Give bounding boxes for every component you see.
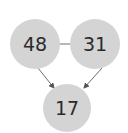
node-31: 31 [70, 19, 120, 69]
arrow-48-to-17 [38, 68, 54, 88]
node-17: 17 [43, 84, 91, 132]
arrow-31-to-17 [84, 68, 102, 88]
node-17-label: 17 [55, 97, 79, 119]
number-diagram: 48 31 17 [0, 0, 128, 133]
node-48: 48 [10, 19, 60, 69]
node-31-label: 31 [83, 33, 107, 55]
node-48-label: 48 [23, 33, 47, 55]
